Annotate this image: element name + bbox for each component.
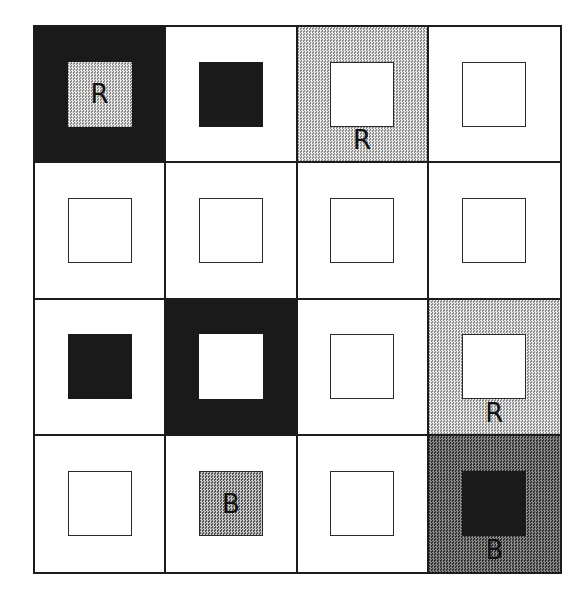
grid-cell-r2c2 [298,300,429,436]
inner-square [462,471,526,536]
inner-square [68,198,132,263]
inner-square [330,198,394,263]
grid-cell-r3c1: B [166,436,297,572]
stimulus-grid: RRRBB [33,25,562,574]
inner-square [462,334,526,399]
grid-cell-r3c0 [35,436,166,572]
inner-square [199,198,263,263]
cell-label: R [91,81,109,107]
grid-cell-r3c2 [298,436,429,572]
figure-canvas: RRRBB [0,0,588,597]
grid-cell-r1c2 [298,163,429,299]
grid-cell-r1c0 [35,163,166,299]
inner-square [330,334,394,399]
grid-cell-r2c1 [166,300,297,436]
inner-square [462,198,526,263]
grid-cell-r2c3: R [429,300,560,436]
cell-label: R [353,127,371,153]
grid-cell-r0c1 [166,27,297,163]
grid-cell-r0c2: R [298,27,429,163]
inner-square [330,471,394,536]
cell-label: R [485,400,503,426]
inner-square [462,62,526,127]
inner-square [68,471,132,536]
grid-cell-r3c3: B [429,436,560,572]
grid-cell-r2c0 [35,300,166,436]
grid-cell-r1c3 [429,163,560,299]
inner-square [330,62,394,127]
cell-label: B [485,537,503,563]
cell-label: B [222,491,240,517]
inner-square: R [68,62,132,127]
inner-square [68,334,132,399]
grid-cell-r0c3 [429,27,560,163]
inner-square [199,334,263,399]
inner-square: B [199,471,263,536]
grid-cell-r1c1 [166,163,297,299]
grid-cell-r0c0: R [35,27,166,163]
inner-square [199,62,263,127]
